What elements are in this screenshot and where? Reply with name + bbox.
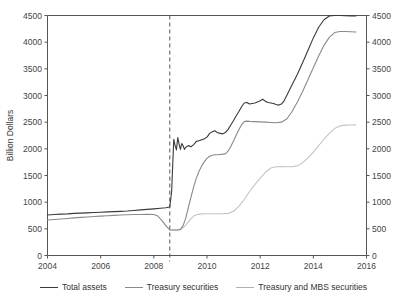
y-tick-label-left: 2000	[23, 144, 42, 154]
y-tick-label-right: 0	[372, 251, 377, 261]
y-tick-label-right: 4000	[372, 37, 391, 47]
y-tick-label-right: 2000	[372, 144, 391, 154]
y-tick-label-right: 3000	[372, 91, 391, 101]
y-tick-label-left: 1500	[23, 171, 42, 181]
y-tick-label-left: 0	[37, 251, 42, 261]
legend-item-label: Treasury and MBS securities	[258, 282, 367, 292]
x-tick-label: 2014	[304, 261, 323, 271]
y-tick-label-right: 3500	[372, 64, 391, 74]
y-tick-label-left: 4000	[23, 37, 42, 47]
legend-item[interactable]: Treasury and MBS securities	[236, 282, 367, 292]
y-tick-label-right: 1000	[372, 197, 391, 207]
series-line-treasury-securities	[48, 32, 356, 231]
y-tick-label-left: 3000	[23, 91, 42, 101]
legend-item[interactable]: Treasury securities	[125, 282, 218, 292]
x-tick-label: 2012	[251, 261, 270, 271]
x-tick-label: 2004	[38, 261, 57, 271]
y-tick-label-right: 1500	[372, 171, 391, 181]
x-tick-label: 2010	[198, 261, 217, 271]
y-tick-label-left: 3500	[23, 64, 42, 74]
x-tick-label: 2006	[91, 261, 110, 271]
series-line-total-assets	[48, 16, 356, 215]
y-tick-label-right: 2500	[372, 117, 391, 127]
line-chart: 0050050010001000150015002000200025002500…	[0, 0, 407, 304]
legend-item-label: Treasury securities	[147, 282, 218, 292]
x-tick-label: 2008	[144, 261, 163, 271]
y-tick-label-left: 1000	[23, 197, 42, 207]
legend-line-swatch	[236, 287, 254, 288]
y-tick-label-right: 4500	[372, 11, 391, 21]
chart-figure: 0050050010001000150015002000200025002500…	[0, 0, 407, 304]
legend-line-swatch	[125, 287, 143, 288]
y-tick-label-left: 4500	[23, 11, 42, 21]
y-tick-label-left: 2500	[23, 117, 42, 127]
y-tick-label-right: 500	[372, 224, 386, 234]
y-axis-title: Billion Dollars	[5, 110, 15, 162]
chart-legend: Total assetsTreasury securitiesTreasury …	[0, 282, 407, 292]
y-tick-label-left: 500	[28, 224, 42, 234]
x-tick-label: 2016	[357, 261, 376, 271]
legend-line-swatch	[40, 287, 58, 288]
legend-item-label: Total assets	[62, 282, 107, 292]
legend-item[interactable]: Total assets	[40, 282, 107, 292]
